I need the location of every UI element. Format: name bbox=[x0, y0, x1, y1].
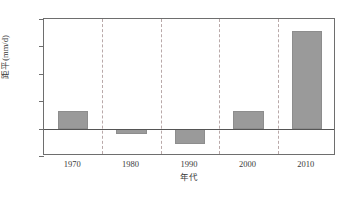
y-axis-tick bbox=[39, 74, 44, 75]
y-axis-tick bbox=[39, 129, 44, 130]
chart-figure: 0.400.300.200.100.00-0.10 19701980199020… bbox=[0, 0, 348, 197]
y-axis-tick bbox=[39, 156, 44, 157]
y-axis-title: 距平(mm/d) bbox=[0, 17, 10, 97]
bar bbox=[233, 111, 263, 129]
bar bbox=[292, 31, 322, 129]
x-axis-title: 年代 bbox=[43, 172, 335, 182]
x-axis-tick-label: 1980 bbox=[106, 159, 156, 169]
x-axis-tick-label: 1970 bbox=[47, 159, 97, 169]
zero-baseline bbox=[44, 129, 334, 130]
gridline-vertical bbox=[278, 19, 279, 154]
x-axis-tick-label: 2010 bbox=[281, 159, 331, 169]
y-axis-tick bbox=[39, 19, 44, 20]
plot-area bbox=[43, 18, 335, 155]
bar bbox=[58, 111, 88, 128]
y-axis-tick bbox=[39, 46, 44, 47]
x-axis-tick-label: 1990 bbox=[164, 159, 214, 169]
gridline-vertical bbox=[219, 19, 220, 154]
bar bbox=[175, 129, 205, 145]
y-axis-tick bbox=[39, 101, 44, 102]
gridline-vertical bbox=[102, 19, 103, 154]
x-axis-tick-label: 2000 bbox=[222, 159, 272, 169]
gridline-vertical bbox=[161, 19, 162, 154]
